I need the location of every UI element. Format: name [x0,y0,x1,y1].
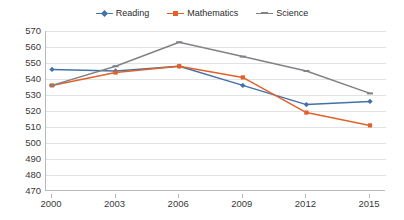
data-point-marker [303,70,309,72]
y-tick-label: 510 [1,122,41,132]
y-tick-label: 570 [1,26,41,36]
plot-area [45,31,385,191]
data-point-marker [240,83,245,88]
data-point-marker [49,84,55,86]
data-point-marker [241,75,245,79]
y-tick-label: 520 [1,106,41,116]
data-point-marker [240,56,246,58]
legend-swatch-icon [96,9,113,18]
legend-label: Mathematics [187,9,238,18]
x-tick-label: 2006 [168,199,189,209]
data-point-marker [304,102,309,107]
series-layer [46,31,386,191]
legend-entry-mathematics[interactable]: Mathematics [167,9,238,18]
legend-swatch-icon [256,9,273,18]
legend-label: Reading [116,9,150,18]
legend-entry-reading[interactable]: Reading [96,9,150,18]
y-tick-label: 480 [1,170,41,180]
legend-entry-science[interactable]: Science [256,9,308,18]
y-tick-label: 550 [1,58,41,68]
y-tick-label: 470 [1,186,41,196]
data-point-marker [49,67,54,72]
y-tick-label: 490 [1,154,41,164]
data-point-marker [368,123,372,127]
data-point-marker [304,111,308,115]
y-tick-label: 560 [1,42,41,52]
x-tick-label: 2009 [231,199,252,209]
y-tick-label: 500 [1,138,41,148]
legend-label: Science [276,9,308,18]
x-tick-label: 2012 [295,199,316,209]
y-tick-label: 530 [1,90,41,100]
data-point-marker [177,64,181,68]
data-point-marker [113,65,119,67]
legend-swatch-icon [167,9,184,18]
series-mathematics [50,64,372,127]
series-science [49,41,373,94]
x-tick-label: 2003 [104,199,125,209]
chart-legend: ReadingMathematicsScience [0,6,404,20]
x-tick-label: 2015 [358,199,379,209]
y-axis: 470480490500510520530540550560570 [0,31,41,191]
y-tick-label: 540 [1,74,41,84]
series-reading [49,64,372,108]
data-point-marker [367,99,372,104]
data-point-marker [176,41,182,43]
line-chart: ReadingMathematicsScience 47048049050051… [0,0,404,220]
data-point-marker [114,71,118,75]
x-tick-label: 2000 [40,199,61,209]
data-point-marker [367,92,373,94]
x-axis: 200020032006200920122015 [45,194,385,210]
series-line [52,42,370,93]
